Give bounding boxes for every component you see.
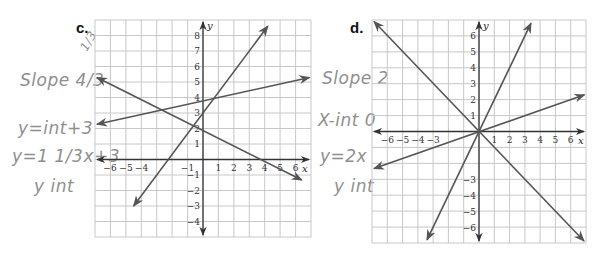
x-axis-label-d: x [578, 135, 584, 146]
svg-text:8: 8 [194, 31, 200, 41]
svg-text:2: 2 [231, 163, 237, 173]
svg-text:5: 5 [470, 47, 476, 57]
panel-label-d: d. [350, 19, 363, 36]
svg-text:−6: −6 [381, 135, 395, 145]
svg-text:4: 4 [262, 163, 268, 173]
svg-text:1: 1 [194, 139, 200, 149]
svg-text:−2: −2 [187, 186, 200, 196]
svg-text:−4: −4 [411, 135, 425, 145]
svg-text:−5: −5 [463, 207, 477, 217]
svg-text:−5: −5 [119, 163, 133, 173]
svg-text:3: 3 [246, 163, 252, 173]
svg-text:2: 2 [507, 135, 513, 145]
svg-text:1: 1 [216, 163, 222, 173]
x-axis-label-c: x [302, 163, 308, 174]
svg-text:−4: −4 [463, 191, 477, 201]
line-c-steep [134, 26, 268, 206]
svg-text:6: 6 [568, 135, 574, 145]
svg-text:−3: −3 [463, 175, 477, 185]
y-axis-label-d: y [482, 20, 489, 31]
svg-text:−3: −3 [426, 135, 440, 145]
svg-text:−1: −1 [187, 170, 200, 180]
svg-text:5: 5 [194, 77, 200, 87]
svg-text:6: 6 [470, 31, 476, 41]
chart-c: x y −6−5−4 −112 345 6 876 543 21−1 −2−3−… [0, 0, 600, 260]
svg-text:−6: −6 [103, 163, 117, 173]
svg-text:−4: −4 [135, 163, 149, 173]
svg-text:1: 1 [470, 111, 476, 121]
svg-text:3: 3 [522, 135, 528, 145]
svg-text:7: 7 [194, 46, 200, 56]
svg-text:4: 4 [470, 63, 476, 73]
svg-text:−5: −5 [396, 135, 410, 145]
y-axis-label-c: y [206, 20, 213, 31]
svg-text:5: 5 [553, 135, 559, 145]
svg-text:−3: −3 [187, 201, 201, 211]
svg-text:6: 6 [293, 163, 299, 173]
svg-text:3: 3 [470, 79, 476, 89]
svg-text:6: 6 [194, 62, 200, 72]
svg-text:−6: −6 [463, 223, 477, 233]
svg-text:2: 2 [470, 95, 476, 105]
svg-text:1: 1 [491, 135, 497, 145]
svg-text:4: 4 [537, 135, 543, 145]
svg-text:−4: −4 [187, 217, 201, 227]
svg-text:3: 3 [194, 108, 200, 118]
